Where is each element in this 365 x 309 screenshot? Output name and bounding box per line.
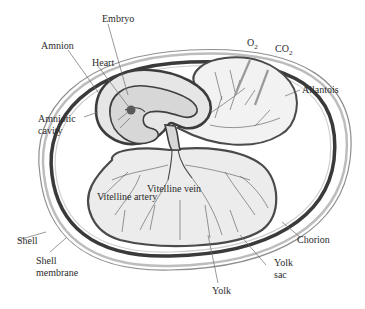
label-co2: CO2 [275, 43, 293, 57]
label-amniotic-cavity-1: Amniotic [38, 113, 76, 124]
label-amnion: Amnion [41, 40, 74, 51]
label-allantois: Allantois [302, 84, 339, 95]
label-shell-membrane-2: membrane [36, 267, 79, 278]
label-shell-membrane-1: Shell [36, 255, 57, 266]
label-chorion: Chorion [297, 234, 330, 245]
label-shell: Shell [17, 235, 38, 246]
label-yolk-sac-2: sac [274, 269, 287, 280]
label-heart: Heart [92, 57, 114, 68]
label-yolk: Yolk [212, 285, 231, 296]
label-o2: O2 [247, 37, 258, 51]
label-amniotic-cavity-2: cavity [38, 125, 62, 136]
label-embryo: Embryo [102, 13, 134, 24]
label-vitelline-artery: Vitelline artery [97, 191, 157, 202]
heart-shape [127, 106, 136, 115]
egg-diagram: Embryo Amnion Heart Amniotic cavity O2 C… [0, 0, 365, 309]
label-yolk-sac-1: Yolk [274, 257, 293, 268]
